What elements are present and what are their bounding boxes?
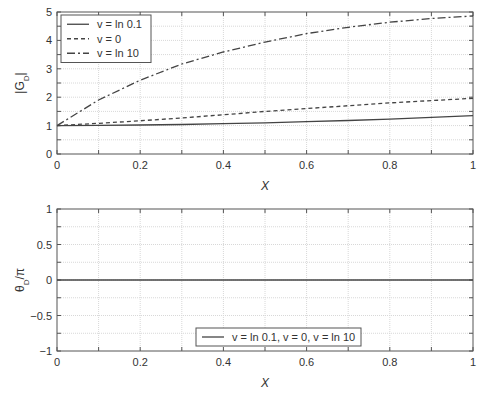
y-axis-label: θD/π (13, 268, 31, 292)
x-tick-label: 0.8 (382, 159, 397, 171)
y-tick-label: 0 (46, 148, 52, 160)
bottom-plot: 00.20.40.60.81−1−0.500.51XθD/πv = ln 0.1… (13, 203, 476, 390)
figure: 00.20.40.60.81012345X|GD|v = ln 0.1v = 0… (0, 0, 490, 400)
x-axis-label: X (260, 179, 270, 193)
x-tick-label: 1 (470, 159, 476, 171)
y-axis-label: |GD| (13, 72, 31, 93)
x-tick-label: 0.8 (382, 356, 397, 368)
y-tick-label: 2 (46, 91, 52, 103)
x-tick-label: 0.2 (133, 356, 148, 368)
y-tick-label: 3 (46, 63, 52, 75)
x-tick-label: 0.6 (299, 159, 314, 171)
y-tick-label: −0.5 (30, 310, 52, 322)
legend-entry: v = ln 0.1 (97, 18, 142, 30)
x-tick-label: 0.2 (133, 159, 148, 171)
y-tick-label: 1 (46, 203, 52, 215)
legend-entry: v = ln 0.1, v = 0, v = ln 10 (232, 331, 355, 343)
y-tick-label: 0.5 (37, 239, 52, 251)
x-tick-label: 0.4 (216, 356, 231, 368)
legend-entry: v = 0 (97, 33, 121, 45)
x-axis-label: X (260, 376, 270, 390)
x-tick-label: 0 (54, 356, 60, 368)
y-tick-label: −1 (39, 345, 52, 357)
x-tick-label: 1 (470, 356, 476, 368)
legend-entry: v = ln 10 (97, 47, 139, 59)
x-tick-label: 0 (54, 159, 60, 171)
y-tick-label: 0 (46, 274, 52, 286)
top-plot: 00.20.40.60.81012345X|GD|v = ln 0.1v = 0… (13, 6, 476, 193)
x-tick-label: 0.4 (216, 159, 231, 171)
x-tick-label: 0.6 (299, 356, 314, 368)
y-tick-label: 5 (46, 6, 52, 18)
y-tick-label: 4 (46, 34, 52, 46)
y-tick-label: 1 (46, 120, 52, 132)
